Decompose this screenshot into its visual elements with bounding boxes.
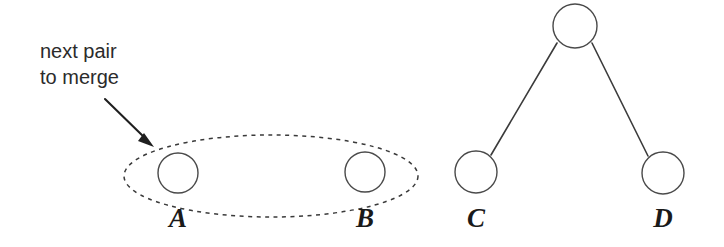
annotation-line-2: to merge [40,66,119,88]
node-b-label: B [355,203,374,233]
tree-edges [491,43,648,156]
annotation-arrow-shaft [105,99,146,139]
node-root [553,4,597,48]
clustering-diagram: next pair to merge A B [0,0,724,247]
node-d-circle [642,152,684,194]
node-c-label: C [467,203,486,233]
annotation-line-1: next pair [40,40,117,62]
node-b-circle [345,152,385,192]
annotation-arrow-head [138,133,154,147]
node-a-label: A [167,203,187,233]
node-c-circle [455,151,497,193]
node-a: A [158,153,198,233]
node-a-circle [158,153,198,193]
tree-edge-root-to-c [491,43,557,155]
node-d: D [642,152,684,233]
node-root-circle [553,4,597,48]
node-b: B [345,152,385,233]
annotation-arrow [105,99,154,147]
tree-edge-root-to-d [592,43,648,156]
node-c: C [455,151,497,233]
node-d-label: D [652,203,673,233]
diagram-canvas: next pair to merge A B [0,0,724,247]
